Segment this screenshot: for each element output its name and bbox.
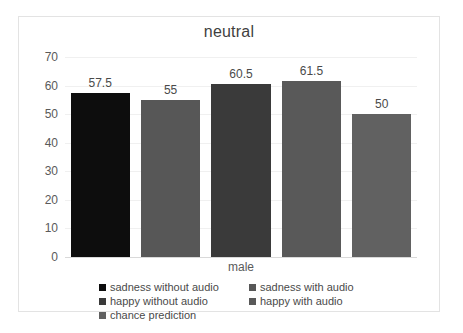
- legend-item[interactable]: sadness with audio: [249, 281, 399, 293]
- bar-slot: 55: [135, 57, 205, 257]
- legend-item[interactable]: sadness without audio: [99, 281, 249, 293]
- legend-item-label: happy with audio: [260, 295, 343, 307]
- legend-item[interactable]: happy with audio: [249, 295, 399, 307]
- bar-value-label: 57.5: [65, 76, 135, 90]
- legend-item[interactable]: happy without audio: [99, 295, 249, 307]
- legend-swatch-icon: [249, 284, 256, 291]
- bar-group: 57.55560.561.550: [65, 57, 417, 257]
- legend-swatch-icon: [99, 284, 106, 291]
- y-axis-tick: 70: [45, 50, 58, 64]
- legend-swatch-icon: [249, 298, 256, 305]
- chart-title: neutral: [19, 23, 439, 41]
- legend-item-label: sadness with audio: [260, 281, 354, 293]
- bar-value-label: 61.5: [276, 64, 346, 78]
- bar[interactable]: [352, 114, 411, 257]
- gridline: [65, 257, 417, 258]
- y-axis-tick: 50: [45, 107, 58, 121]
- legend-item-label: chance prediction: [110, 309, 196, 321]
- plot-area: 706050403020100 57.55560.561.550: [65, 57, 417, 257]
- y-axis-tick: 60: [45, 79, 58, 93]
- chart-legend: sadness without audiosadness with audioh…: [99, 281, 399, 323]
- chart-container: neutral 706050403020100 57.55560.561.550…: [18, 16, 440, 312]
- legend-swatch-icon: [99, 312, 106, 319]
- bar-slot: 60.5: [206, 57, 276, 257]
- y-axis-tick: 30: [45, 164, 58, 178]
- bar[interactable]: [211, 84, 270, 257]
- bar-value-label: 55: [135, 83, 205, 97]
- bar[interactable]: [71, 93, 130, 257]
- y-axis-tick: 10: [45, 221, 58, 235]
- bar[interactable]: [141, 100, 200, 257]
- legend-item-label: happy without audio: [110, 295, 208, 307]
- y-axis-tick: 0: [51, 250, 58, 264]
- bar-slot: 57.5: [65, 57, 135, 257]
- y-axis-tick: 20: [45, 193, 58, 207]
- x-axis-label: male: [65, 260, 417, 274]
- y-axis-tick: 40: [45, 136, 58, 150]
- bar-value-label: 50: [347, 97, 417, 111]
- bar-slot: 61.5: [276, 57, 346, 257]
- legend-swatch-icon: [99, 298, 106, 305]
- legend-item[interactable]: chance prediction: [99, 309, 249, 321]
- bar-slot: 50: [347, 57, 417, 257]
- legend-item-label: sadness without audio: [110, 281, 219, 293]
- bar[interactable]: [282, 81, 341, 257]
- bar-value-label: 60.5: [206, 67, 276, 81]
